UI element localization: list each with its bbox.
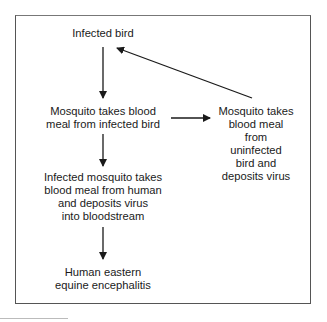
arrow-uninfected-to-bird (117, 48, 252, 98)
footer-rule (0, 318, 68, 319)
arrows-layer (0, 0, 327, 322)
